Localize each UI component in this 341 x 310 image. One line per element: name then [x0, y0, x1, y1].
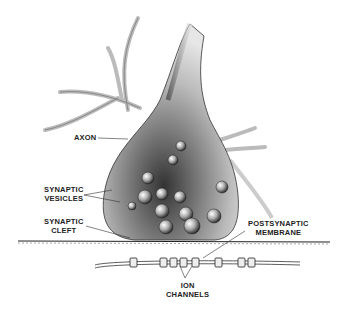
label-synaptic-vesicles: SYNAPTIC VESICLES [44, 186, 84, 203]
label-postsynaptic-membrane: POSTSYNAPTIC MEMBRANE [248, 220, 309, 237]
synapse-illustration [0, 0, 341, 310]
label-ion-channels: ION CHANNELS [166, 282, 209, 299]
ion-channels [130, 258, 255, 267]
label-synaptic-cleft: SYNAPTIC CLEFT [44, 218, 84, 235]
label-axon: AXON [74, 134, 96, 143]
synapse-diagram: AXON SYNAPTIC VESICLES SYNAPTIC CLEFT PO… [0, 0, 341, 310]
